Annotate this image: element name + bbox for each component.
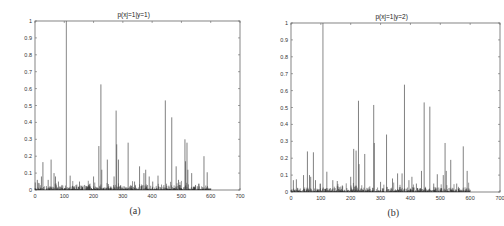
- y-tick-label: 0: [29, 187, 32, 193]
- x-tick-label: 0: [289, 195, 292, 201]
- x-tick-label: 700: [495, 195, 504, 201]
- y-tick-label: 0.7: [280, 71, 288, 77]
- y-tick-label: 0.4: [24, 119, 32, 125]
- x-tick-label: 700: [235, 193, 244, 199]
- y-tick-label: 0.9: [24, 35, 32, 41]
- x-tick-label: 100: [316, 195, 325, 201]
- chart-panel-b: 00.10.20.30.40.50.60.70.80.9101002003004…: [252, 0, 504, 226]
- bar-chart-a: 00.10.20.30.40.50.60.70.80.9101002003004…: [0, 0, 252, 226]
- y-tick-label: 0.6: [24, 86, 32, 92]
- x-tick-label: 500: [436, 195, 445, 201]
- y-tick-label: 0: [285, 189, 288, 195]
- y-tick-label: 0.2: [280, 155, 288, 161]
- x-tick-label: 300: [118, 193, 127, 199]
- y-tick-label: 1: [29, 18, 32, 24]
- y-tick-label: 0.7: [24, 69, 32, 75]
- caption-a: (a): [130, 205, 141, 216]
- y-tick-label: 0.5: [24, 103, 32, 109]
- y-tick-label: 0.3: [24, 136, 32, 142]
- y-tick-label: 0.1: [280, 172, 288, 178]
- y-tick-label: 0.3: [280, 138, 288, 144]
- x-tick-label: 100: [60, 193, 69, 199]
- y-tick-label: 0.9: [280, 37, 288, 43]
- peak-bars: [293, 23, 467, 192]
- y-tick-label: 0.1: [24, 170, 32, 176]
- x-tick-label: 400: [406, 195, 415, 201]
- plot-frame: [35, 21, 240, 190]
- y-tick-label: 0.5: [280, 105, 288, 111]
- caption-b: (b): [388, 207, 400, 218]
- x-tick-label: 600: [466, 195, 475, 201]
- x-tick-label: 200: [346, 195, 355, 201]
- plot-frame: [291, 23, 500, 192]
- y-tick-label: 0.8: [280, 54, 288, 60]
- y-tick-label: 0.6: [280, 88, 288, 94]
- x-tick-label: 500: [177, 193, 186, 199]
- x-tick-label: 600: [206, 193, 215, 199]
- y-tick-label: 1: [285, 20, 288, 26]
- chart-panel-a: 00.10.20.30.40.50.60.70.80.9101002003004…: [0, 0, 252, 226]
- x-tick-label: 300: [376, 195, 385, 201]
- x-tick-label: 400: [148, 193, 157, 199]
- y-tick-label: 0.4: [280, 121, 288, 127]
- x-tick-label: 200: [89, 193, 98, 199]
- chart-title-a: p(xj=1|y=1): [118, 11, 150, 18]
- peak-bars: [37, 21, 207, 190]
- y-tick-label: 0.2: [24, 153, 32, 159]
- y-tick-label: 0.8: [24, 52, 32, 58]
- bar-chart-b: 00.10.20.30.40.50.60.70.80.9101002003004…: [252, 0, 504, 226]
- chart-title-b: p(xj=1|y=2): [376, 13, 408, 20]
- x-tick-label: 0: [33, 193, 36, 199]
